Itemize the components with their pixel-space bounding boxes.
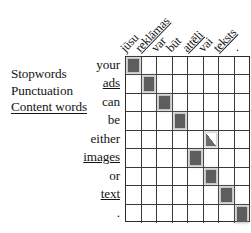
row-label-3: be — [58, 111, 122, 129]
grid-row — [126, 205, 249, 223]
grid-cell-r6-c3 — [173, 168, 189, 185]
grid-cell-r1-c1 — [142, 75, 158, 92]
row-label-0: your — [58, 56, 122, 74]
alignment-mark — [237, 207, 248, 221]
grid-cell-r6-c0 — [126, 168, 142, 185]
grid-cell-r7-c6 — [219, 186, 235, 203]
alignment-mark — [190, 151, 201, 164]
row-label-text: can — [102, 94, 120, 109]
row-label-7: text — [58, 185, 122, 203]
grid-cell-r8-c4 — [188, 205, 204, 223]
grid-cell-r6-c6 — [219, 168, 235, 185]
grid-cell-r6-c7 — [235, 168, 250, 185]
row-label-text: images — [83, 149, 120, 164]
grid-cell-r0-c6 — [219, 57, 235, 74]
grid-cell-r2-c4 — [188, 94, 204, 111]
grid-cell-r6-c5 — [204, 168, 220, 185]
grid-cell-r0-c1 — [142, 57, 158, 74]
grid-cell-r8-c1 — [142, 205, 158, 223]
grid-cell-r1-c3 — [173, 75, 189, 92]
grid-row — [126, 168, 249, 186]
grid-cell-r6-c4 — [188, 168, 204, 185]
grid-cell-r5-c2 — [157, 149, 173, 166]
grid-row — [126, 186, 249, 204]
grid-cell-r4-c0 — [126, 131, 142, 148]
grid-cell-r0-c5 — [204, 57, 220, 74]
alignment-grid — [125, 56, 250, 222]
grid-cell-r0-c0 — [126, 57, 142, 74]
grid-cell-r3-c7 — [235, 112, 250, 129]
grid-cell-r7-c0 — [126, 186, 142, 203]
grid-cell-r3-c6 — [219, 112, 235, 129]
grid-cell-r8-c6 — [219, 205, 235, 223]
grid-cell-r8-c3 — [173, 205, 189, 223]
grid-cell-r7-c2 — [157, 186, 173, 203]
grid-cell-r4-c4 — [188, 131, 204, 148]
row-label-text: be — [108, 112, 120, 127]
row-label-5: images — [58, 148, 122, 166]
grid-cell-r4-c1 — [142, 131, 158, 148]
row-label-2: can — [58, 93, 122, 111]
grid-cell-r8-c7 — [235, 205, 250, 223]
grid-cell-r4-c2 — [157, 131, 173, 148]
grid-cell-r3-c1 — [142, 112, 158, 129]
alignment-mark — [206, 170, 217, 183]
grid-cell-r1-c7 — [235, 75, 250, 92]
grid-cell-r1-c5 — [204, 75, 220, 92]
grid-cell-r2-c6 — [219, 94, 235, 111]
grid-cell-r7-c7 — [235, 186, 250, 203]
grid-cell-r4-c7 — [235, 131, 250, 148]
grid-cell-r5-c4 — [188, 149, 204, 166]
grid-cell-r7-c1 — [142, 186, 158, 203]
column-header-group: jūsureklāmasvarbūtattēlivaiteksts. — [125, 0, 251, 56]
grid-cell-r1-c6 — [219, 75, 235, 92]
grid-cell-r4-c6 — [219, 131, 235, 148]
alignment-mark — [128, 59, 139, 72]
row-label-1: ads — [58, 74, 122, 92]
grid-cell-r3-c0 — [126, 112, 142, 129]
grid-row — [126, 131, 249, 149]
partial-alignment-mark — [206, 133, 217, 146]
grid-cell-r3-c2 — [157, 112, 173, 129]
word-alignment-matrix-figure: StopwordsPunctuationContent words jūsure… — [0, 0, 251, 233]
grid-cell-r1-c0 — [126, 75, 142, 92]
grid-row — [126, 75, 249, 93]
grid-cell-r5-c6 — [219, 149, 235, 166]
grid-cell-r8-c2 — [157, 205, 173, 223]
row-label-4: either — [58, 130, 122, 148]
grid-cell-r2-c1 — [142, 94, 158, 111]
grid-cell-r8-c0 — [126, 205, 142, 223]
grid-cell-r6-c2 — [157, 168, 173, 185]
row-label-text: text — [101, 186, 120, 201]
column-header-6: teksts — [211, 26, 239, 54]
grid-row — [126, 94, 249, 112]
grid-cell-r7-c3 — [173, 186, 189, 203]
grid-cell-r2-c0 — [126, 94, 142, 111]
grid-cell-r0-c3 — [173, 57, 189, 74]
row-label-group: youradscanbeeitherimagesortext. — [58, 56, 122, 222]
grid-cell-r8-c5 — [204, 205, 220, 223]
grid-cell-r3-c5 — [204, 112, 220, 129]
alignment-mark — [221, 188, 232, 201]
grid-cell-r0-c7 — [235, 57, 250, 74]
grid-cell-r5-c7 — [235, 149, 250, 166]
grid-cell-r2-c2 — [157, 94, 173, 111]
grid-cell-r7-c4 — [188, 186, 204, 203]
grid-cell-r5-c5 — [204, 149, 220, 166]
grid-cell-r3-c4 — [188, 112, 204, 129]
grid-cell-r2-c3 — [173, 94, 189, 111]
alignment-mark — [144, 77, 155, 90]
grid-cell-r1-c2 — [157, 75, 173, 92]
row-label-text: either — [91, 131, 120, 146]
row-label-text: or — [109, 168, 120, 183]
grid-cell-r2-c7 — [235, 94, 250, 111]
grid-cell-r5-c1 — [142, 149, 158, 166]
row-label-6: or — [58, 167, 122, 185]
alignment-mark — [159, 96, 170, 109]
row-label-text: . — [117, 205, 120, 220]
grid-cell-r0-c4 — [188, 57, 204, 74]
column-header-7: . — [236, 41, 239, 53]
grid-row — [126, 149, 249, 167]
grid-row — [126, 57, 249, 75]
grid-cell-r2-c5 — [204, 94, 220, 111]
